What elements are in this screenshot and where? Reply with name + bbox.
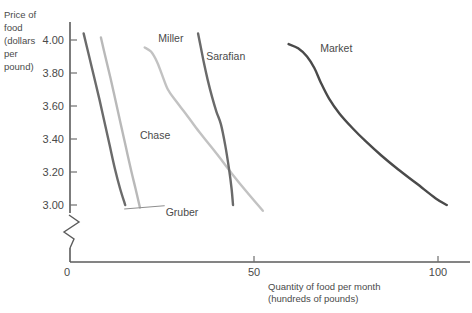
x-tick-label: 100 xyxy=(429,266,447,278)
y-tick-label: 3.20 xyxy=(43,166,64,178)
x-axis-label-line1: Quantity of food per month xyxy=(268,281,380,292)
leader-line-gruber xyxy=(124,206,164,209)
demand-curve-chart: 3.003.203.403.603.804.00501000Price offo… xyxy=(0,0,472,313)
series-label-miller: Miller xyxy=(158,32,184,44)
x-axis-label-line2: (hundreds of pounds) xyxy=(268,293,358,304)
y-tick-label: 3.80 xyxy=(43,67,64,79)
origin-label: 0 xyxy=(64,266,70,278)
y-axis-label-line: (dollars xyxy=(4,35,35,46)
series-label-sarafian: Sarafian xyxy=(206,50,245,62)
y-axis-label-line: food xyxy=(4,22,23,33)
curve-market xyxy=(289,44,447,205)
y-tick-label: 4.00 xyxy=(43,34,64,46)
y-tick-label: 3.60 xyxy=(43,100,64,112)
y-axis-label-line: Price of xyxy=(4,9,37,20)
series-label-chase: Chase xyxy=(140,129,171,141)
x-tick-label: 50 xyxy=(248,266,260,278)
y-axis-label-line: pound) xyxy=(4,61,34,72)
y-axis-label-line: per xyxy=(4,48,18,59)
y-tick-label: 3.40 xyxy=(43,133,64,145)
chart-canvas: 3.003.203.403.603.804.00501000Price offo… xyxy=(0,0,472,313)
series-label-market: Market xyxy=(320,42,352,54)
y-tick-label: 3.00 xyxy=(43,199,64,211)
series-label-gruber: Gruber xyxy=(166,206,199,218)
curve-chase xyxy=(101,38,140,208)
y-axis-break-symbol xyxy=(64,215,79,248)
